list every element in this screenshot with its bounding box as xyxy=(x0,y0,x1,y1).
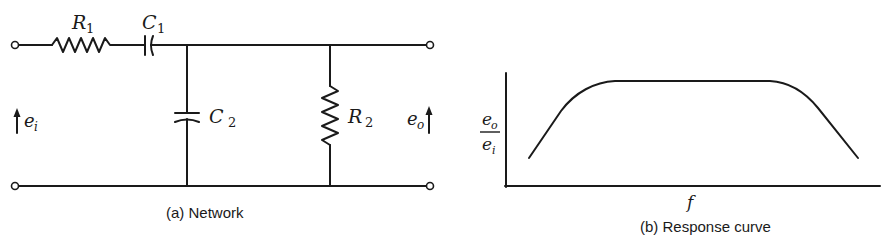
svg-text:R: R xyxy=(347,105,362,127)
svg-text:e: e xyxy=(482,134,492,154)
output-terminal-bottom xyxy=(427,183,434,190)
input-terminal-bottom xyxy=(12,183,19,190)
arrow-head-icon xyxy=(426,106,433,115)
input-terminal-top xyxy=(12,42,19,49)
caption-response: (b) Response curve xyxy=(640,218,771,235)
label-r1: R 1 xyxy=(71,11,94,36)
resistor-r1 xyxy=(52,38,113,52)
input-voltage-label: e i xyxy=(14,108,39,134)
output-voltage-label: e o xyxy=(407,106,433,133)
resistor-r2 xyxy=(322,86,338,145)
svg-text:2: 2 xyxy=(365,115,373,130)
svg-text:1: 1 xyxy=(157,21,165,36)
svg-text:o: o xyxy=(491,119,498,132)
svg-text:o: o xyxy=(417,118,424,132)
network-diagram: R 1 C 1 C 2 R 2 e i e o (a) Networ xyxy=(12,11,434,221)
svg-text:R: R xyxy=(71,11,86,33)
svg-text:C: C xyxy=(142,11,157,33)
y-axis-label: e o e i xyxy=(480,109,500,157)
label-c1: C 1 xyxy=(142,11,165,36)
output-terminal-top xyxy=(427,42,434,49)
response-curve xyxy=(529,81,858,158)
svg-text:C: C xyxy=(209,105,224,127)
svg-text:2: 2 xyxy=(228,115,236,130)
x-axis-label: f xyxy=(685,192,696,212)
arrow-head-icon xyxy=(14,108,21,117)
svg-text:i: i xyxy=(492,144,496,157)
figure-canvas: R 1 C 1 C 2 R 2 e i e o (a) Networ xyxy=(0,0,891,244)
svg-text:1: 1 xyxy=(86,21,94,36)
label-r2: R 2 xyxy=(347,105,373,130)
caption-network: (a) Network xyxy=(166,204,244,221)
label-c2: C 2 xyxy=(209,105,236,130)
response-chart: e o e i f (b) Response curve xyxy=(480,73,880,235)
svg-text:i: i xyxy=(34,120,38,134)
